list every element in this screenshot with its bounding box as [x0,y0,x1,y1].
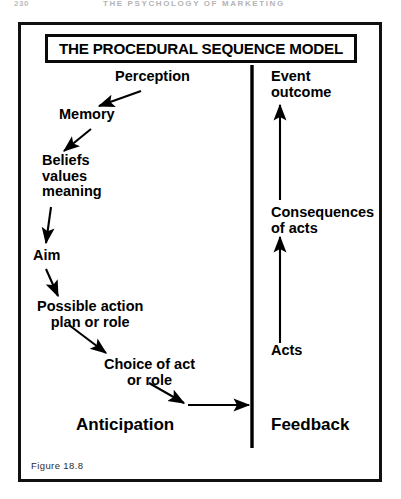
figure-title-box: THE PROCEDURAL SEQUENCE MODEL [45,34,357,63]
node-acts: Acts [271,343,302,359]
node-consequences-of-acts: Consequences of acts [271,205,374,236]
column-heading-feedback: Feedback [271,416,349,434]
node-possible-action: Possible action plan or role [37,299,143,330]
node-choice-of-act: Choice of act or role [104,357,195,388]
node-memory: Memory [59,107,115,123]
node-beliefs-values-meaning: Beliefs values meaning [42,153,102,200]
running-head-title: THE PSYCHOLOGY OF MARKETING [103,0,285,8]
node-aim: Aim [33,248,60,264]
arrow-memory-to-beliefs [64,129,91,151]
column-heading-anticipation: Anticipation [76,416,174,434]
figure-title: THE PROCEDURAL SEQUENCE MODEL [59,41,343,56]
figure-frame: THE PROCEDURAL SEQUENCE MODEL Perception… [18,22,382,482]
arrow-beliefs-to-aim [46,207,51,243]
page-number: 230 [14,0,29,8]
figure-caption: Figure 18.8 [31,460,83,471]
running-head: 230 THE PSYCHOLOGY OF MARKETING [0,0,401,14]
node-event-outcome: Event outcome [271,69,331,100]
node-perception: Perception [115,69,190,85]
arrow-perception-to-memory [99,91,141,106]
arrow-aim-to-possible-action [46,269,58,296]
